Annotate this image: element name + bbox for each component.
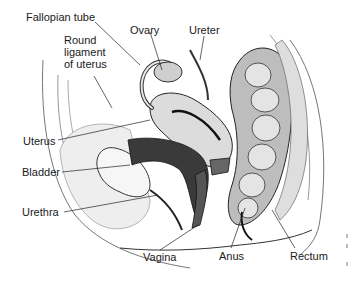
urethra [150,190,182,230]
label-anus: Anus [219,250,244,262]
edge-mark [346,262,348,266]
ureter [190,50,208,100]
label-uterus: Uterus [23,135,55,147]
label-fallopian-tube: Fallopian tube [26,11,95,23]
perineum [120,230,312,250]
label-urethra: Urethra [22,206,59,218]
label-vagina: Vagina [143,251,176,263]
label-round-ligament-line3: of uterus [64,58,107,70]
label-ureter: Ureter [189,24,220,36]
label-round-ligament: Round ligament of uterus [64,34,107,70]
label-round-ligament-line2: ligament [64,46,107,58]
label-round-ligament-line1: Round [64,34,107,46]
label-bladder: Bladder [22,166,60,178]
edge-mark [346,244,348,248]
edge-mark [346,234,348,238]
cervix [210,158,230,175]
label-ovary: Ovary [130,24,159,36]
ovary [154,62,182,82]
label-rectum: Rectum [290,250,328,262]
